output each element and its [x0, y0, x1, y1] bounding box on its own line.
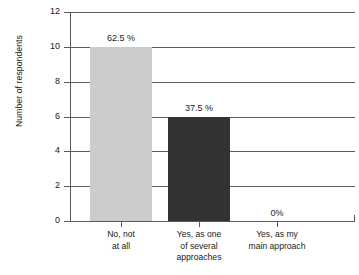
x-axis-label-line: of several — [154, 241, 244, 253]
x-axis-label-yes-one-of-several: Yes, as oneof severalapproaches — [154, 229, 244, 264]
y-tick-label: 4 — [55, 145, 60, 155]
y-tick-label: 8 — [55, 76, 60, 86]
y-tick-label: 12 — [50, 6, 60, 16]
y-tick-0: 0 — [64, 221, 70, 222]
x-tick-yes-main-approach — [277, 222, 278, 227]
x-tick-yes-one-of-several — [199, 222, 200, 227]
x-axis-label-line: at all — [76, 241, 166, 253]
bar-no-not-at-all[interactable]: 62.5 % — [90, 47, 152, 221]
bar-chart: Number of respondents 121086420 62.5 %37… — [0, 0, 359, 275]
x-axis-label-line: approaches — [154, 252, 244, 264]
x-axis-label-line: Yes, as my — [232, 229, 322, 241]
plot-area: 62.5 %37.5 %0% — [70, 12, 355, 221]
x-axis-label-line: No, not — [76, 229, 166, 241]
bar-yes-one-of-several[interactable]: 37.5 % — [168, 117, 230, 222]
x-axis-label-line: Yes, as one — [154, 229, 244, 241]
x-axis-line — [70, 221, 355, 222]
x-axis-label-line: main approach — [232, 241, 322, 253]
y-tick-label: 0 — [55, 215, 60, 225]
y-axis-title: Number of respondents — [14, 6, 24, 156]
x-tick-no-not-at-all — [121, 222, 122, 227]
bar-value-label: 0% — [270, 208, 283, 218]
x-axis-label-yes-main-approach: Yes, as mymain approach — [232, 229, 322, 252]
y-tick-label: 2 — [55, 180, 60, 190]
y-tick-label: 6 — [55, 111, 60, 121]
bar-value-label: 62.5 % — [107, 33, 135, 43]
x-axis-label-no-not-at-all: No, notat all — [76, 229, 166, 252]
bar-value-label: 37.5 % — [185, 103, 213, 113]
y-tick-label: 10 — [50, 41, 60, 51]
